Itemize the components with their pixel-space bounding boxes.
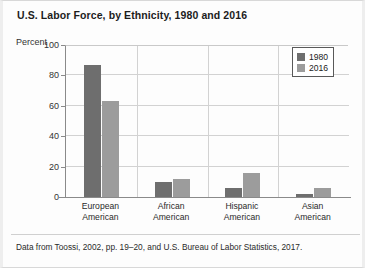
x-axis-category-line: Hispanic [207,201,278,212]
y-axis-tick-label: 80 [33,70,59,80]
legend-swatch-icon-1980 [297,53,305,61]
x-axis-line [59,197,351,198]
x-axis-category-line: American [136,212,207,223]
bar-2016-european-american [102,101,119,197]
legend-item-2016: 2016 [297,62,328,73]
x-axis-category-line: African [136,201,207,212]
legend-label-2016: 2016 [309,63,328,73]
x-axis-category-label: EuropeanAmerican [65,201,136,222]
bar-2016-asian-american [314,188,331,197]
source-note: Data from Toossi, 2002, pp. 19–20, and U… [16,242,302,252]
y-axis-tick-mark [61,136,65,137]
x-axis-category-line: American [207,212,278,223]
y-axis-tick-label: 40 [33,131,59,141]
bar-2016-african-american [173,179,190,197]
y-axis-tick-label: 20 [33,162,59,172]
source-divider [11,234,360,235]
x-axis-category-label: AfricanAmerican [136,201,207,222]
y-axis-tick-mark [61,75,65,76]
legend-swatch-icon-2016 [297,64,305,72]
category-separator [278,46,279,198]
y-axis-tick-mark [61,197,65,198]
y-axis-tick-label: 100 [33,40,59,50]
x-axis-category-label: AsianAmerican [277,201,348,222]
x-axis-category-label: HispanicAmerican [207,201,278,222]
bar-1980-african-american [155,182,172,197]
x-axis-category-line: European [65,201,136,212]
category-separator [208,46,209,198]
chart-legend: 1980 2016 [292,47,334,77]
bar-1980-hispanic-american [225,188,242,197]
page-title: U.S. Labor Force, by Ethnicity, 1980 and… [17,9,247,21]
legend-item-1980: 1980 [297,51,328,62]
bar-1980-european-american [84,65,101,197]
figure-panel: U.S. Labor Force, by Ethnicity, 1980 and… [0,0,365,268]
category-separator [137,46,138,198]
y-axis-tick-label: 0 [33,192,59,202]
y-axis-tick-mark [61,167,65,168]
legend-label-1980: 1980 [309,52,328,62]
x-axis-category-line: American [65,212,136,223]
x-axis-category-line: American [277,212,348,223]
x-axis-category-line: Asian [277,201,348,212]
y-axis-tick-mark [61,106,65,107]
y-axis-tick-mark [61,45,65,46]
bar-2016-hispanic-american [243,173,260,197]
y-axis-tick-label: 60 [33,101,59,111]
